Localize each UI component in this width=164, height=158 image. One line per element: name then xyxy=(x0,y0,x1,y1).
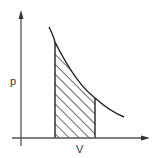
pv-diagram: p V xyxy=(0,0,164,158)
shaded-work-area xyxy=(55,42,95,138)
y-axis-arrow-icon xyxy=(19,10,24,19)
y-axis xyxy=(19,10,24,146)
x-axis-label: V xyxy=(76,143,84,155)
y-axis-label: p xyxy=(10,75,16,87)
x-axis-arrow-icon xyxy=(141,136,150,141)
